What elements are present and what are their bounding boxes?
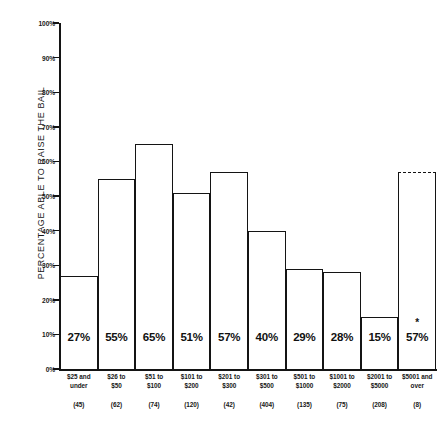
x-axis-category-labels: $25 andunder(45)$26 to$50(62)$51 to$100(… <box>60 372 436 432</box>
x-axis-category-label: $2001 to <box>361 372 399 381</box>
sample-size-label: (45) <box>60 401 98 408</box>
bar-value-label: 27% <box>61 331 97 343</box>
y-axis-tick-label: 30% <box>42 262 55 269</box>
x-axis-category: $25 andunder(45) <box>60 372 98 408</box>
x-axis-category: $201 to$300(42) <box>210 372 248 408</box>
bar[interactable]: 55% <box>98 179 136 369</box>
y-axis-tick-label: 20% <box>42 296 55 303</box>
bar[interactable]: 57% <box>210 172 248 369</box>
x-axis-category-label: $2000 <box>323 381 361 390</box>
x-axis-baseline <box>59 369 437 371</box>
plot-area: 0%10%20%30%40%50%60%70%80%90%100% 27%55%… <box>59 23 436 369</box>
x-axis-category-label: $1000 <box>286 381 324 390</box>
bar-value-label: 51% <box>174 331 210 343</box>
sample-size-label: (62) <box>98 401 136 408</box>
bar-value-label: 15% <box>362 331 398 343</box>
x-axis-category-label: $201 to <box>210 372 248 381</box>
x-axis-category-label: $500 <box>248 381 286 390</box>
y-axis-tick-label: 10% <box>42 331 55 338</box>
x-axis-category: $501 to$1000(135) <box>286 372 324 408</box>
x-axis-category-label: $300 <box>210 381 248 390</box>
x-axis-category-label: $26 to <box>98 372 136 381</box>
bars-layer: 27%55%65%51%57%40%29%28%15%*57% <box>60 23 436 369</box>
bar-value-label: 65% <box>136 331 172 343</box>
bar-chart: PERCENTAGE ABLE TO RAISE THE BAIL 0%10%2… <box>0 0 437 446</box>
bar-value-label: 28% <box>324 331 360 343</box>
x-axis-category-label: $101 to <box>173 372 211 381</box>
x-axis-category-label: $1001 to <box>323 372 361 381</box>
sample-size-label: (74) <box>135 401 173 408</box>
bar-value-label: 29% <box>287 331 323 343</box>
sample-size-label: (8) <box>398 401 436 408</box>
sample-size-label: (135) <box>286 401 324 408</box>
bar-value-label: 40% <box>249 331 285 343</box>
y-axis-tick-label: 50% <box>42 193 55 200</box>
bar[interactable]: 28% <box>323 272 361 369</box>
x-axis-category-label: $50 <box>98 381 136 390</box>
footnote-asterisk: * <box>399 318 435 328</box>
bar-value-label: 55% <box>99 331 135 343</box>
sample-size-label: (75) <box>323 401 361 408</box>
x-axis-category-label: $51 to <box>135 372 173 381</box>
bar[interactable]: 29% <box>286 269 324 369</box>
sample-size-label: (42) <box>210 401 248 408</box>
x-axis-category-label: $200 <box>173 381 211 390</box>
bar[interactable]: *57% <box>398 172 436 369</box>
bar[interactable]: 65% <box>135 144 173 369</box>
y-axis-tick-label: 0% <box>46 366 55 373</box>
x-axis-category: $51 to$100(74) <box>135 372 173 408</box>
sample-size-label: (404) <box>248 401 286 408</box>
y-axis-tick-label: 40% <box>42 227 55 234</box>
y-axis-tick-label: 70% <box>42 123 55 130</box>
x-axis-category: $301 to$500(404) <box>248 372 286 408</box>
y-axis-tick-label: 80% <box>42 89 55 96</box>
y-axis-tick-label: 90% <box>42 54 55 61</box>
x-axis-category: $5001 andover(8) <box>398 372 436 408</box>
y-axis-tick-label: 100% <box>39 20 55 27</box>
sample-size-label: (208) <box>361 401 399 408</box>
x-axis-category-label: $501 to <box>286 372 324 381</box>
sample-size-label: (120) <box>173 401 211 408</box>
x-axis-category-label: $25 and <box>60 372 98 381</box>
bar[interactable]: 40% <box>248 231 286 369</box>
x-axis-category-label: $301 to <box>248 372 286 381</box>
bar[interactable]: 27% <box>60 276 98 369</box>
y-axis-tick-label: 60% <box>42 158 55 165</box>
x-axis-category-label: $100 <box>135 381 173 390</box>
x-axis-category: $101 to$200(120) <box>173 372 211 408</box>
x-axis-category-label: $5001 and <box>398 372 436 381</box>
x-axis-category: $26 to$50(62) <box>98 372 136 408</box>
bar[interactable]: 51% <box>173 193 211 369</box>
bar-value-label: 57% <box>211 331 247 343</box>
bar[interactable]: 15% <box>361 317 399 369</box>
x-axis-category: $2001 to$5000(208) <box>361 372 399 408</box>
x-axis-category-label: $5000 <box>361 381 399 390</box>
x-axis-category-label: under <box>60 381 98 390</box>
bar-value-label: 57% <box>399 331 435 343</box>
x-axis-category-label: over <box>398 381 436 390</box>
x-axis-category: $1001 to$2000(75) <box>323 372 361 408</box>
